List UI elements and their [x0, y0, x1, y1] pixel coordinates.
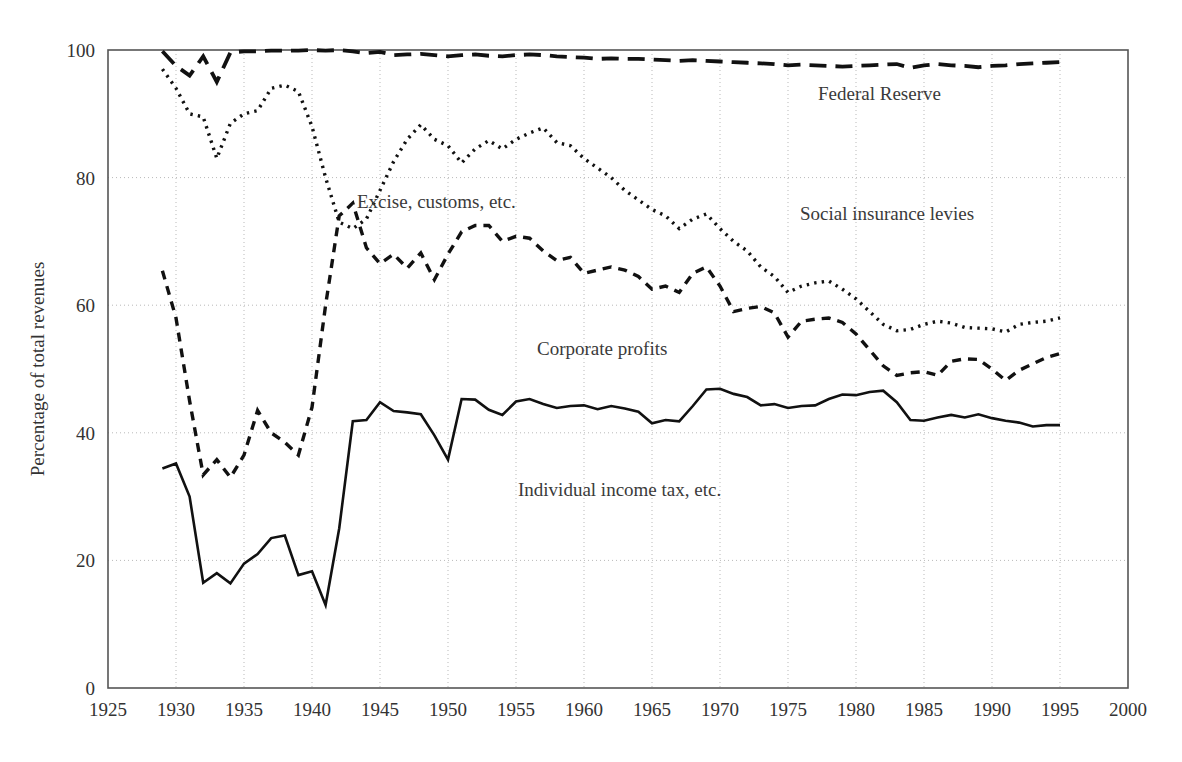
x-tick-label: 1970 [701, 699, 739, 720]
x-tick-label: 1990 [973, 699, 1011, 720]
y-tick-label: 0 [86, 678, 96, 699]
chart-canvas: 1925193019351940194519501955196019651970… [0, 0, 1182, 762]
x-tick-label: 1935 [225, 699, 263, 720]
x-tick-label: 1965 [633, 699, 671, 720]
x-tick-label: 1995 [1041, 699, 1079, 720]
x-tick-label: 1955 [497, 699, 535, 720]
x-tick-label: 1925 [89, 699, 127, 720]
x-tick-label: 2000 [1109, 699, 1147, 720]
x-tick-label: 1985 [905, 699, 943, 720]
y-tick-label: 20 [76, 550, 95, 571]
excise-customs-label: Excise, customs, etc. [357, 191, 516, 212]
corporate-profits-label: Corporate profits [537, 338, 667, 359]
plot-frame [108, 50, 1128, 688]
y-tick-label: 80 [76, 168, 95, 189]
x-tick-label: 1930 [157, 699, 195, 720]
x-tick-label: 1960 [565, 699, 603, 720]
series-line-3 [162, 50, 1060, 82]
x-tick-label: 1980 [837, 699, 875, 720]
y-tick-label: 40 [76, 423, 95, 444]
individual-income-label: Individual income tax, etc. [518, 479, 721, 500]
x-tick-label: 1945 [361, 699, 399, 720]
series-line-2 [162, 69, 1060, 332]
x-tick-label: 1940 [293, 699, 331, 720]
y-axis-title: Percentage of total revenues [27, 262, 48, 477]
social-insurance-label: Social insurance levies [800, 203, 974, 224]
federal-reserve-label: Federal Reserve [818, 83, 941, 104]
y-tick-label: 100 [67, 40, 96, 61]
x-tick-label: 1950 [429, 699, 467, 720]
x-tick-label: 1975 [769, 699, 807, 720]
y-tick-label: 60 [76, 295, 95, 316]
revenue-composition-chart: 1925193019351940194519501955196019651970… [0, 0, 1182, 762]
